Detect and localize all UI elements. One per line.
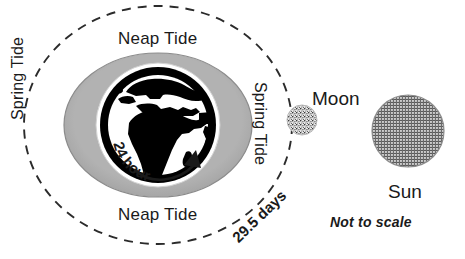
moon-circle-icon: [287, 105, 317, 135]
label-not-to-scale: Not to scale: [330, 215, 412, 229]
label-neap-tide-bottom: Neap Tide: [118, 206, 197, 223]
sun-circle-icon: [372, 95, 444, 167]
label-sun: Sun: [388, 182, 422, 201]
label-moon: Moon: [312, 89, 360, 108]
label-spring-tide-right: Spring Tide: [252, 82, 268, 165]
label-neap-tide-top: Neap Tide: [118, 30, 197, 47]
tides-diagram: 24 hours Neap Tide Neap Tide Spring Tide…: [0, 0, 465, 259]
label-spring-tide-left: Spring Tide: [10, 37, 26, 120]
